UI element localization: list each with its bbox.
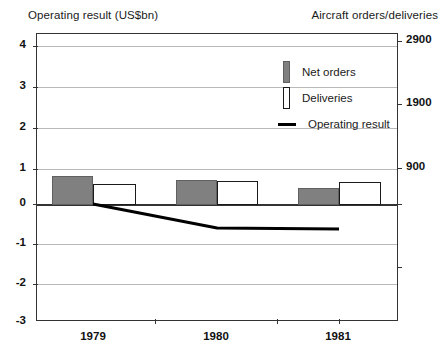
y-axis-left-tick-4: 4 — [0, 38, 26, 50]
legend-label-operating-result: Operating result — [308, 118, 390, 130]
legend-label-net-orders: Net orders — [302, 66, 356, 78]
y-axis-right-tick-900: 900 — [406, 160, 442, 172]
plot-area: Net orders Deliveries Operating result — [36, 33, 398, 321]
white-bar-swatch-icon — [283, 87, 290, 109]
y-axis-left-tick-1: 1 — [0, 161, 26, 173]
x-axis-tick-1981: 1981 — [308, 330, 368, 342]
right-axis-title: Aircraft orders/deliveries — [311, 9, 438, 21]
left-axis-title: Operating result (US$bn) — [28, 9, 158, 21]
legend-item-deliveries: Deliveries — [283, 86, 353, 110]
y-axis-left-tick-minus3: -3 — [0, 314, 26, 326]
legend-item-operating-result: Operating result — [283, 112, 390, 136]
y-axis-right-tick-1900: 1900 — [406, 96, 442, 108]
y-axis-left-tick-2: 2 — [0, 120, 26, 132]
y-axis-left-tick-0: 0 — [0, 196, 26, 208]
black-line-swatch-icon — [278, 123, 296, 126]
operating-result-polyline — [93, 204, 339, 229]
y-axis-left-tick-minus2: -2 — [0, 276, 26, 288]
x-axis-tick-1980: 1980 — [186, 330, 246, 342]
y-axis-left-tick-minus1: -1 — [0, 236, 26, 248]
legend-label-deliveries: Deliveries — [302, 92, 353, 104]
y-axis-right-tick-2900: 2900 — [406, 33, 442, 45]
y-axis-left-tick-3: 3 — [0, 79, 26, 91]
gray-bar-swatch-icon — [283, 61, 290, 83]
legend-item-net-orders: Net orders — [283, 60, 356, 84]
x-axis-tick-1979: 1979 — [63, 330, 123, 342]
operating-result-aircraft-chart: Operating result (US$bn) Aircraft orders… — [0, 0, 442, 354]
